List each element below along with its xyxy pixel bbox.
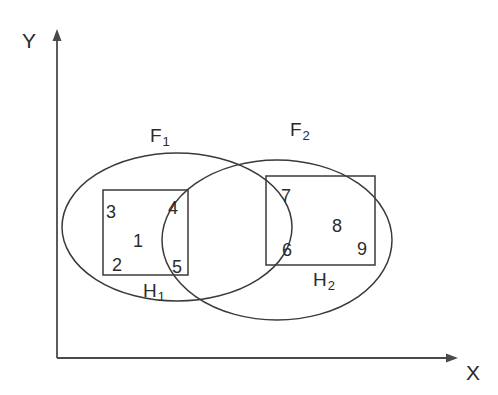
diagram-graphics [0, 0, 498, 395]
diagram-canvas: Y X F1 F2 H1 H2 3 4 1 2 5 7 8 6 9 [0, 0, 498, 395]
y-axis [53, 29, 62, 358]
rectangle-h2-label-sub: 2 [328, 278, 335, 293]
region-label-7: 7 [281, 187, 291, 205]
ellipse-f2-label-base: F [290, 119, 302, 140]
rectangle-h2-label: H2 [313, 270, 334, 289]
region-label-8: 8 [332, 217, 342, 235]
rectangle-h1-label-sub: 1 [158, 289, 165, 304]
rectangle-h1-label: H1 [143, 281, 164, 300]
x-axis-label: X [466, 362, 480, 383]
rectangle-h2-label-base: H [313, 269, 327, 290]
x-axis [57, 354, 458, 363]
ellipse-f2-label: F2 [290, 120, 309, 139]
ellipse-f2-label-sub: 2 [303, 128, 310, 143]
ellipse-f1-label: F1 [150, 126, 169, 145]
ellipse-f1-label-base: F [150, 125, 162, 146]
region-label-2: 2 [112, 256, 122, 274]
y-axis-label: Y [22, 30, 36, 51]
region-label-1: 1 [133, 232, 143, 250]
region-label-4: 4 [168, 199, 178, 217]
region-label-9: 9 [357, 240, 367, 258]
ellipse-f1-label-sub: 1 [163, 134, 170, 149]
rectangle-h1-label-base: H [143, 280, 157, 301]
region-label-6: 6 [282, 241, 292, 259]
region-label-3: 3 [106, 203, 116, 221]
region-label-5: 5 [172, 258, 182, 276]
